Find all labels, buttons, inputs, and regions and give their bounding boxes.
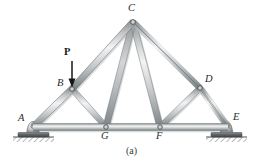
support-plate-A xyxy=(18,133,49,138)
ground-hatch-E xyxy=(206,137,247,142)
member-GF xyxy=(106,124,160,131)
joint-label-A: A xyxy=(18,113,24,124)
joint-label-D: D xyxy=(205,74,213,85)
ground-hatch-A xyxy=(13,137,54,142)
member-AG xyxy=(33,124,106,131)
support-plate-E xyxy=(211,133,242,138)
joint-label-F: F xyxy=(156,131,162,142)
joint-label-G: G xyxy=(101,131,109,142)
joint-pin-G xyxy=(104,125,109,130)
figure-caption: (a) xyxy=(126,146,137,156)
joint-pin-F xyxy=(158,125,163,130)
truss-diagram xyxy=(0,0,260,166)
joint-pin-C xyxy=(131,20,136,25)
member-DE xyxy=(200,88,228,127)
joint-label-C: C xyxy=(128,3,135,14)
member-DF xyxy=(160,88,200,127)
member-FE xyxy=(160,124,228,131)
joint-label-E: E xyxy=(233,112,239,123)
member-BG xyxy=(72,89,106,127)
load-label-P: P xyxy=(64,47,70,58)
member-AB xyxy=(33,89,72,127)
truss-figure: A B C D E G F P (a) xyxy=(0,0,260,166)
joint-pin-D xyxy=(198,86,203,91)
members-bottom-chord xyxy=(33,124,228,131)
joint-label-B: B xyxy=(57,78,63,89)
